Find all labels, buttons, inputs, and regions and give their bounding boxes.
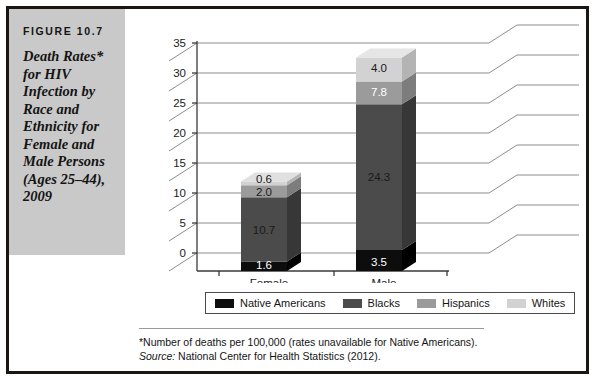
legend-item-whites[interactable]: Whites: [507, 297, 566, 309]
figure-caption-text: Death Rates* for HIV Infection by Race a…: [23, 48, 115, 206]
figure-frame: FIGURE 10.7 Death Rates* for HIV Infecti…: [6, 6, 589, 374]
figure-caption-panel: FIGURE 10.7 Death Rates* for HIV Infecti…: [9, 9, 125, 255]
chart-plot-area: 0 5 10 15 20 25 30 35: [159, 23, 579, 283]
y-tick-0: 0: [180, 247, 186, 259]
legend-item-blacks[interactable]: Blacks: [343, 297, 400, 309]
chart-legend: Native Americans Blacks Hispanics Whites: [205, 292, 575, 314]
legend-item-hispanics[interactable]: Hispanics: [417, 297, 490, 309]
footnote-source-line: Source: National Center for Health Stati…: [139, 350, 559, 364]
x-category-label-female: Female: [250, 277, 288, 283]
legend-label-native-americans: Native Americans: [240, 297, 326, 309]
y-tick-10: 10: [173, 187, 186, 199]
legend-item-native-americans[interactable]: Native Americans: [215, 297, 326, 309]
legend-label-blacks: Blacks: [368, 297, 400, 309]
legend-swatch-hispanics: [417, 299, 436, 308]
y-tick-5: 5: [180, 217, 186, 229]
bar-male-label-hispanics: 7.8: [371, 86, 387, 98]
footnote-source-text: National Center for Health Statistics (2…: [175, 350, 380, 362]
y-tick-35: 35: [173, 37, 186, 49]
bar-male-label-whites: 4.0: [371, 62, 387, 74]
footnote-divider: [139, 328, 484, 329]
bar-female-label-blacks: 10.7: [253, 224, 275, 236]
legend-swatch-native-americans: [215, 299, 234, 308]
bar-male-label-blacks: 24.3: [368, 171, 390, 183]
chart-gridlines: [169, 43, 489, 241]
bar-male-label-native-americans: 3.5: [371, 256, 387, 268]
y-tick-25: 25: [173, 97, 186, 109]
footnote-asterisk-note: *Number of deaths per 100,000 (rates una…: [139, 336, 559, 350]
footnote-source-prefix: Source:: [139, 350, 175, 362]
bar-female[interactable]: 1.6 10.7 2.0 0.6: [241, 173, 301, 271]
y-tick-15: 15: [173, 157, 186, 169]
y-tick-20: 20: [173, 127, 186, 139]
stacked-bar-chart: 0 5 10 15 20 25 30 35: [159, 23, 579, 283]
bar-female-label-whites: 0.6: [256, 173, 272, 185]
bar-female-label-native-americans: 1.6: [256, 259, 272, 271]
x-category-label-male: Male: [372, 277, 397, 283]
x-axis: [197, 271, 449, 276]
footnote-block: *Number of deaths per 100,000 (rates una…: [139, 336, 559, 363]
y-tick-labels: 0 5 10 15 20 25 30 35: [173, 37, 186, 259]
bar-male-seg-blacks-side: [402, 95, 416, 250]
legend-label-hispanics: Hispanics: [442, 297, 490, 309]
bar-male[interactable]: 3.5 24.3 7.8 4.0: [356, 48, 416, 271]
legend-swatch-whites: [507, 299, 526, 308]
y-tick-30: 30: [173, 67, 186, 79]
bar-female-label-hispanics: 2.0: [256, 186, 272, 198]
figure-number-label: FIGURE 10.7: [23, 25, 115, 37]
legend-label-whites: Whites: [532, 297, 566, 309]
legend-swatch-blacks: [343, 299, 362, 308]
bar-female-seg-blacks-side: [287, 188, 301, 261]
